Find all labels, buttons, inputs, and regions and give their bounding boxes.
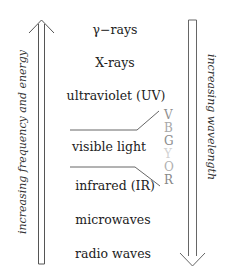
band-gamma-rays: γ−rays — [93, 22, 138, 37]
color-letter-orange: O — [164, 160, 174, 174]
color-letter-blue: B — [164, 121, 173, 135]
band-ultraviolet: ultraviolet (UV) — [67, 88, 166, 103]
band-microwaves: microwaves — [75, 212, 150, 227]
color-letter-violet: V — [164, 108, 173, 122]
band-visible-light: visible light — [72, 139, 146, 154]
up-arrow-icon — [29, 20, 54, 264]
right-arrow-label: increasing wavelength — [205, 54, 218, 180]
band-radio-waves: radio waves — [75, 246, 151, 261]
color-letter-green: G — [164, 134, 174, 148]
color-letter-yellow: Y — [164, 147, 172, 161]
left-arrow-label: increasing frequency and energy — [16, 50, 29, 234]
band-x-rays: X-rays — [95, 55, 135, 70]
color-letter-red: R — [164, 173, 173, 187]
down-arrow-icon — [180, 20, 205, 266]
band-infrared: infrared (IR) — [75, 178, 155, 193]
